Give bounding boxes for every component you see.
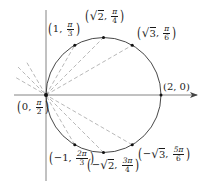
fraction: π2 [36, 99, 43, 115]
denominator: 2 [36, 108, 43, 116]
point-sqrt2-pi-4 [102, 36, 105, 39]
label-sqrt2-pi-4: ( √2, π4 ) [84, 8, 125, 24]
sign: − [143, 149, 151, 159]
comma: , [28, 102, 31, 112]
fraction: π3 [67, 21, 74, 37]
denominator: 4 [111, 17, 118, 25]
comma: , [69, 153, 72, 163]
point-neg1-2pi-3 [73, 143, 76, 146]
denominator: 3 [67, 30, 74, 38]
point-origin [44, 93, 48, 97]
point-2-0 [160, 94, 163, 97]
point-1-pi-3 [73, 44, 76, 47]
label-origin-0-pi-2: ( 0, π2 ) [16, 99, 49, 115]
label-text: (2, 0) [163, 82, 190, 92]
point-negsqrt3-5pi-6 [131, 143, 134, 146]
fraction: π4 [111, 8, 118, 24]
point-sqrt3-pi-6 [131, 44, 134, 47]
denominator: 6 [175, 155, 182, 163]
label-1-pi-3: ( 1, π3 ) [47, 21, 80, 37]
fraction: π6 [163, 25, 170, 41]
sqrt: √3 [142, 27, 156, 39]
label-negsqrt3-5pi-6: ( − √3, 5π6 ) [137, 146, 191, 162]
denominator: 6 [163, 34, 170, 42]
comma: , [165, 149, 168, 159]
point-negsqrt2-3pi-4 [102, 151, 105, 154]
denominator: 4 [124, 166, 131, 174]
comma: , [59, 24, 62, 34]
sign: − [92, 160, 100, 170]
sqrt: √3 [151, 148, 165, 160]
comma: , [156, 28, 159, 38]
label-sqrt3-pi-6: ( √3, π6 ) [136, 25, 177, 41]
comma: , [104, 11, 107, 21]
label-negsqrt2-3pi-4: ( − √2, 3π4 ) [86, 157, 140, 173]
fraction: 5π6 [173, 146, 185, 162]
denominator: 3 [78, 159, 85, 167]
comma: , [114, 160, 117, 170]
sqrt: √2 [100, 159, 114, 171]
sqrt: √2 [90, 10, 104, 22]
dashed-ray-pi-6 [46, 45, 132, 95]
label-r: −1 [54, 153, 69, 163]
fraction: 3π4 [122, 157, 134, 173]
label-2-0: (2, 0) [163, 82, 190, 92]
